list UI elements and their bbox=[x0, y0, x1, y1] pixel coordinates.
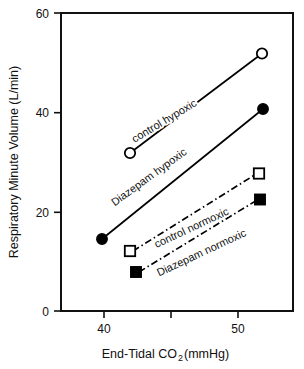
y-tick-label-40: 40 bbox=[36, 106, 50, 120]
y-tick-label-60: 60 bbox=[36, 7, 50, 21]
data-point-control-hypoxic-1 bbox=[125, 148, 135, 158]
x-axis-title-main: End-Tidal CO bbox=[102, 347, 178, 361]
data-point-diazepam-normoxic-1 bbox=[131, 267, 141, 277]
x-axis-title-subscript: 2 bbox=[178, 353, 183, 363]
series-diazepam-hypoxic bbox=[97, 104, 268, 244]
y-tick-label-20: 20 bbox=[36, 206, 50, 220]
y-axis-title-text: Respiratory Minute Volume (L/min) bbox=[7, 66, 21, 258]
y-axis-title: Respiratory Minute Volume (L/min) bbox=[7, 66, 21, 258]
x-axis-title: End-Tidal CO 2 (mmHg) bbox=[102, 347, 229, 363]
data-point-diazepam-hypoxic-2 bbox=[258, 104, 268, 114]
annotation-diazepam-hypoxic-text: Diazepam hypoxic bbox=[109, 145, 189, 208]
data-point-control-normoxic-1 bbox=[125, 246, 135, 256]
data-point-control-hypoxic-2 bbox=[257, 48, 267, 58]
respiratory-minute-volume-chart: 60 40 20 0 40 50 Respiratory Minute Volu… bbox=[0, 0, 304, 369]
x-axis-title-unit: (mmHg) bbox=[184, 347, 229, 361]
data-point-diazepam-hypoxic-1 bbox=[97, 234, 107, 244]
annotation-control-hypoxic-text: control hypoxic bbox=[129, 96, 198, 144]
annotation-diazepam-hypoxic: Diazepam hypoxic Diazepam hypoxic bbox=[109, 145, 189, 208]
x-axis-ticks bbox=[104, 311, 238, 318]
data-point-diazepam-normoxic-2 bbox=[255, 194, 265, 204]
x-tick-label-50: 50 bbox=[231, 322, 245, 336]
data-point-control-normoxic-2 bbox=[254, 168, 264, 178]
annotation-control-hypoxic: control hypoxic control hypoxic bbox=[129, 96, 198, 144]
x-axis-tick-labels: 40 50 bbox=[97, 322, 245, 336]
x-tick-label-40: 40 bbox=[97, 322, 111, 336]
y-tick-label-0: 0 bbox=[42, 305, 49, 319]
chart-figure: 60 40 20 0 40 50 Respiratory Minute Volu… bbox=[0, 0, 304, 369]
y-axis-ticks bbox=[54, 13, 61, 311]
y-axis-tick-labels: 60 40 20 0 bbox=[36, 7, 50, 319]
